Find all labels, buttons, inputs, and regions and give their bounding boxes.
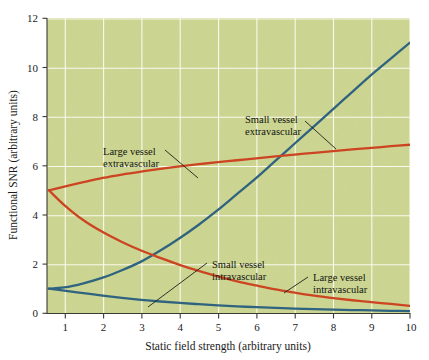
x-tick-label-10: 10 [406,321,418,333]
x-tick-label-7: 7 [292,321,298,333]
y-tick-label-6: 6 [33,160,39,172]
x-tick-label-6: 6 [254,321,260,333]
annotation-large-vessel-extravascular-line2: extravascular [103,158,159,169]
x-tick-label-8: 8 [331,321,337,333]
x-tick-label-9: 9 [369,321,375,333]
annotation-large-vessel-intravascular-line2: intravascular [313,284,368,295]
annotation-small-vessel-extravascular-line1: Small vessel [245,114,298,125]
annotation-large-vessel-intravascular-line1: Large vessel [313,272,366,283]
x-tick-label-2: 2 [101,321,107,333]
annotation-large-vessel-extravascular-line1: Large vessel [103,146,156,157]
x-tick-label-5: 5 [216,321,222,333]
plot-area: Large vessel extravascular Small vessel … [47,18,410,313]
x-tick-label-1: 1 [63,321,69,333]
x-axis-title: Static field strength (arbitrary units) [145,340,311,353]
y-tick-label-0: 0 [33,307,39,319]
x-tick-label-3: 3 [139,321,145,333]
annotation-small-vessel-intravascular-line1: Small vessel [212,259,265,270]
y-tick-label-8: 8 [33,111,39,123]
x-tick-label-4: 4 [177,321,183,333]
y-tick-label-4: 4 [33,209,39,221]
y-tick-label-10: 10 [27,62,39,74]
y-axis-title: Functional SNR (arbitrary units) [7,90,20,240]
annotation-small-vessel-intravascular-line2: intravascular [212,271,267,282]
y-tick-label-2: 2 [33,258,39,270]
annotation-small-vessel-extravascular-line2: extravascular [245,126,301,137]
chart-svg: Large vessel extravascular Small vessel … [0,0,429,360]
chart-figure: Large vessel extravascular Small vessel … [0,0,429,360]
y-tick-label-12: 12 [27,12,38,24]
